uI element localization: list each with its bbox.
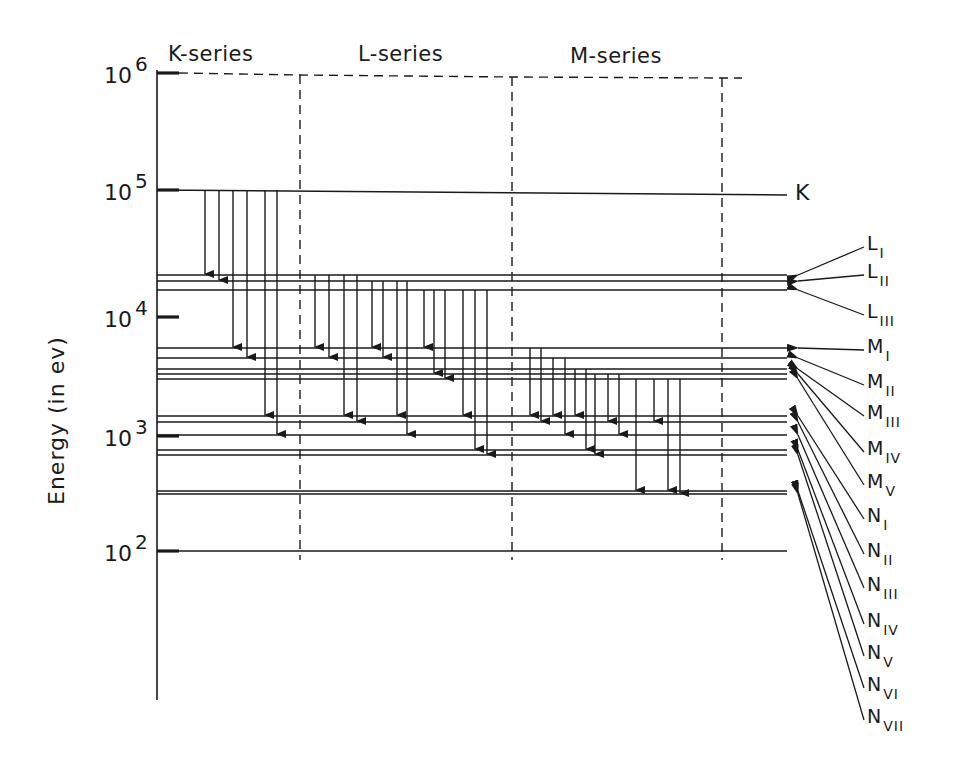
- y-tick-label: 102: [104, 534, 148, 566]
- level-label-m-i: MI: [867, 335, 891, 361]
- level-pointer: [798, 374, 864, 452]
- level-label-n-ii: NII: [867, 539, 893, 565]
- level-pointer: [798, 435, 864, 588]
- y-tick-label: 104: [104, 300, 148, 332]
- level-pointer: [798, 290, 864, 315]
- level-pointer: [798, 247, 864, 275]
- y-axis-title: Energy (in ev): [44, 336, 69, 505]
- y-tick-label: 103: [104, 419, 148, 451]
- level-label-l-i: LI: [867, 232, 885, 258]
- level-label-n-vii: NVII: [867, 705, 904, 731]
- energy-levels: [157, 190, 787, 551]
- level-label-l-ii: LII: [867, 260, 890, 286]
- k-series-header: K-series: [168, 42, 253, 66]
- level-label-m-v: MV: [867, 470, 896, 496]
- level-pointer: [798, 348, 864, 350]
- y-tick-label: 106: [104, 56, 148, 88]
- level-pointers: [798, 247, 864, 720]
- level-pointer: [798, 494, 864, 720]
- level-label-m-iv: MIV: [867, 437, 901, 463]
- y-axis: [157, 70, 179, 700]
- series-dividers: [179, 73, 742, 560]
- y-tick-label: 105: [104, 173, 148, 205]
- level-pointer: [798, 422, 864, 554]
- level-label-n-iv: NIV: [867, 609, 899, 635]
- level-line-k: [157, 190, 787, 195]
- level-label-m-ii: MII: [867, 370, 896, 396]
- level-pointer: [798, 455, 864, 656]
- level-label-n-vi: NVI: [867, 673, 899, 699]
- transitions: [205, 190, 680, 493]
- level-pointer: [798, 275, 864, 281]
- m-series-header: M-series: [570, 44, 662, 68]
- l-series-header: L-series: [358, 42, 443, 66]
- level-pointer: [798, 358, 864, 385]
- level-label-n-iii: NIII: [867, 573, 899, 599]
- level-pointer: [798, 450, 864, 624]
- energy-level-diagram: [0, 0, 962, 773]
- level-label-n-v: NV: [867, 641, 894, 667]
- level-label-n-i: NI: [867, 504, 888, 530]
- level-label-m-iii: MIII: [867, 401, 901, 427]
- level-label-k: K: [795, 180, 809, 205]
- level-label-l-iii: LIII: [867, 300, 895, 326]
- level-pointer: [798, 491, 864, 688]
- level-pointer: [798, 369, 864, 416]
